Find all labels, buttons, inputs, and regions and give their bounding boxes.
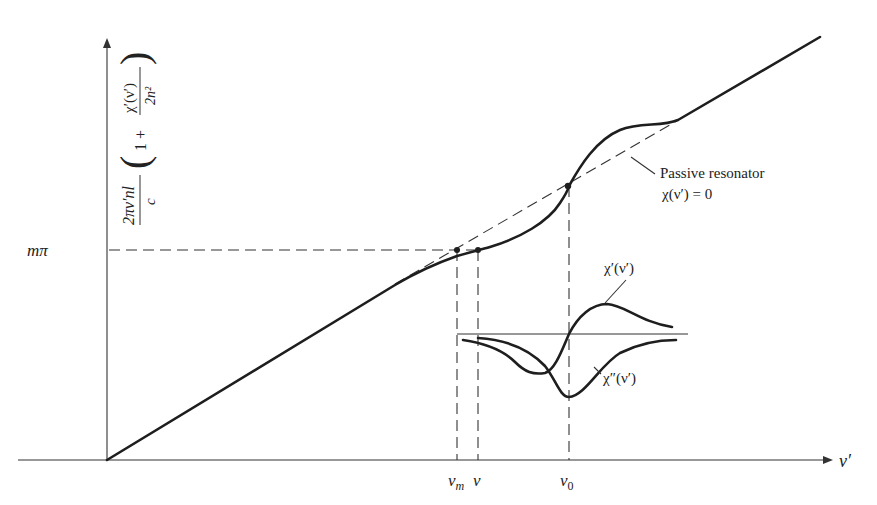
- y-label-chi-numerator: χ′(ν′): [121, 83, 138, 114]
- nu0-point: [565, 183, 571, 189]
- y-axis-label: 2πν′nl c ( 1 + χ′(ν′) 2n² ): [112, 52, 158, 225]
- guide-lines: [109, 119, 680, 460]
- nu-m-label: νm: [448, 471, 465, 493]
- y-label-close-paren: ): [112, 52, 157, 65]
- y-axis-arrow-icon: [103, 38, 111, 48]
- active-resonator-curve: [107, 37, 820, 460]
- y-label-denominator: c: [142, 198, 158, 205]
- nu-m-point: [454, 247, 460, 253]
- chi-prime-leader: [605, 280, 626, 303]
- y-label-chi-denominator: 2n²: [143, 86, 158, 105]
- nu0-label: ν0: [560, 471, 574, 493]
- chi-double-prime-curve: [478, 338, 676, 397]
- chi-prime-label: χ′(ν′): [603, 260, 634, 277]
- passive-resonator-condition: χ(ν′) = 0: [661, 186, 712, 203]
- passive-resonator-line: [395, 119, 680, 284]
- passive-resonator-label: Passive resonator: [660, 165, 765, 181]
- x-axis-label: ν′: [839, 451, 852, 471]
- y-label-open-paren: (: [112, 156, 157, 169]
- y-label-one-plus: 1 +: [132, 130, 149, 151]
- marked-points: [454, 183, 571, 253]
- chi-double-prime-label: χ″(ν′): [602, 370, 636, 387]
- nu-label: ν: [473, 471, 481, 490]
- diagram-canvas: mπ νm ν ν0 ν′ Passive resonator χ(ν′) = …: [0, 0, 877, 505]
- passive-resonator-leader: [631, 157, 655, 174]
- y-label-numerator: 2πν′nl: [120, 185, 137, 225]
- susceptibility-inset: [457, 280, 688, 397]
- x-axis-arrow-icon: [823, 456, 833, 464]
- m-pi-label: mπ: [27, 241, 48, 260]
- nu-point: [475, 247, 481, 253]
